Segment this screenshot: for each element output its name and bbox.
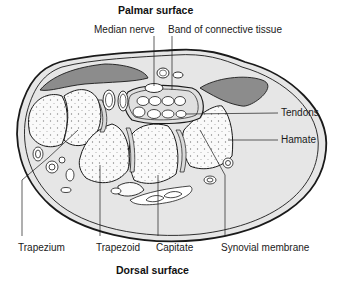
- title-dorsal-surface: Dorsal surface: [116, 264, 189, 276]
- label-band-of-connective-tissue: Band of connective tissue: [168, 24, 282, 36]
- label-capitate: Capitate: [156, 242, 193, 254]
- label-hamate: Hamate: [281, 134, 316, 146]
- label-median-nerve: Median nerve: [94, 24, 155, 36]
- label-synovial-membrane: Synovial membrane: [221, 242, 309, 254]
- title-palmar-surface: Palmar surface: [118, 4, 193, 16]
- label-tendons: Tendons: [281, 107, 319, 119]
- wrist-cross-section-diagram: Palmar surface Median nerve Band of conn…: [0, 0, 337, 282]
- label-trapezium: Trapezium: [18, 242, 65, 254]
- label-trapezoid: Trapezoid: [96, 242, 140, 254]
